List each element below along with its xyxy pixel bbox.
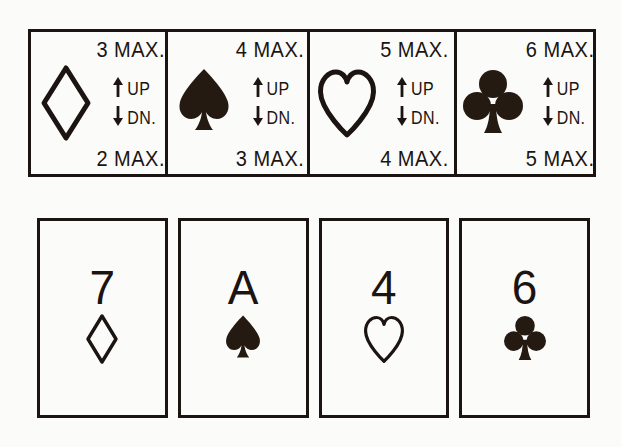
- down-label: DN.: [557, 109, 586, 127]
- legend-cell-spade: 4 MAX. UP: [168, 32, 311, 174]
- legend-cell-club: 6 MAX. UP: [457, 32, 599, 174]
- up-label: UP: [557, 80, 580, 98]
- card-row: 7 A 4: [37, 218, 590, 418]
- arrow-up-icon: [112, 76, 124, 102]
- updown-arrows: UP DN.: [252, 78, 305, 129]
- club-filled-icon: [504, 316, 546, 362]
- up-arrow-row: UP: [252, 78, 290, 100]
- down-arrow-row: DN.: [542, 107, 586, 129]
- arrow-up-icon: [542, 76, 554, 102]
- legend-bottom-max: 3 MAX.: [236, 147, 305, 169]
- down-arrow-row: DN.: [252, 107, 296, 129]
- down-label: DN.: [411, 109, 440, 127]
- up-label: UP: [267, 80, 290, 98]
- down-arrow-row: DN.: [112, 107, 156, 129]
- legend-cell-diamond: 3 MAX. UP: [31, 32, 168, 174]
- updown-arrows: UP DN.: [112, 78, 165, 129]
- diamond-outline-icon: [31, 32, 96, 174]
- arrow-up-icon: [396, 76, 408, 102]
- down-arrow-row: DN.: [396, 107, 440, 129]
- arrow-down-icon: [396, 105, 408, 131]
- down-label: DN.: [267, 109, 296, 127]
- updown-arrows: UP DN.: [542, 78, 595, 129]
- up-arrow-row: UP: [396, 78, 434, 100]
- spade-filled-icon: [223, 316, 263, 362]
- legend-bottom-max: 4 MAX.: [380, 147, 449, 169]
- up-label: UP: [127, 80, 150, 98]
- up-arrow-row: UP: [112, 78, 150, 100]
- legend-strip: 3 MAX. UP: [28, 29, 596, 177]
- legend-info-spade: 4 MAX. UP: [236, 32, 314, 174]
- arrow-down-icon: [112, 105, 124, 131]
- legend-info-diamond: 3 MAX. UP: [96, 32, 174, 174]
- card-six-of-clubs[interactable]: 6: [459, 218, 590, 418]
- card-rank-label: A: [228, 263, 259, 311]
- legend-bottom-max: 5 MAX.: [526, 147, 595, 169]
- legend-info-club: 6 MAX. UP: [526, 32, 604, 174]
- card-rank-label: 7: [90, 263, 116, 311]
- spade-filled-icon: [168, 32, 236, 174]
- heart-outline-icon: [362, 316, 406, 362]
- legend-info-heart: 5 MAX. UP: [380, 32, 458, 174]
- club-filled-icon: [457, 32, 526, 174]
- card-rank-legend-figure: 3 MAX. UP: [0, 0, 621, 447]
- legend-top-max: 3 MAX.: [96, 38, 165, 60]
- heart-outline-icon: [310, 32, 380, 174]
- up-label: UP: [411, 80, 434, 98]
- down-label: DN.: [127, 109, 156, 127]
- card-ace-of-spades[interactable]: A: [178, 218, 309, 418]
- legend-bottom-max: 2 MAX.: [96, 147, 165, 169]
- up-arrow-row: UP: [542, 78, 580, 100]
- card-rank-label: 6: [512, 263, 538, 311]
- legend-cell-heart: 5 MAX. UP: [310, 32, 457, 174]
- card-seven-of-diamonds[interactable]: 7: [37, 218, 168, 418]
- arrow-down-icon: [542, 105, 554, 131]
- card-rank-label: 4: [371, 263, 397, 311]
- legend-top-max: 5 MAX.: [380, 38, 449, 60]
- diamond-outline-icon: [85, 316, 119, 362]
- arrow-down-icon: [252, 105, 264, 131]
- card-four-of-hearts[interactable]: 4: [319, 218, 450, 418]
- arrow-up-icon: [252, 76, 264, 102]
- legend-top-max: 4 MAX.: [236, 38, 305, 60]
- legend-top-max: 6 MAX.: [526, 38, 595, 60]
- updown-arrows: UP DN.: [396, 78, 449, 129]
